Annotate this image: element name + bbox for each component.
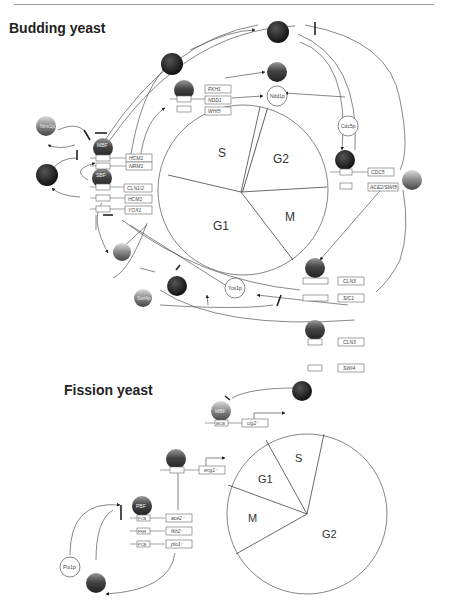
fission-cell-cycle-wheel: S G1 M G2 <box>227 434 387 594</box>
protein-cdc5p: Cdc5p <box>338 116 358 136</box>
protein-nrm1p: Nrm1p <box>36 116 56 136</box>
phase-label-m: M <box>285 210 295 224</box>
svg-text:FKH: FKH <box>138 529 146 534</box>
protein-sep1p <box>166 449 186 469</box>
svg-text:MBF: MBF <box>97 142 108 148</box>
protein-cdc15p <box>86 573 106 593</box>
protein-whi5p <box>113 243 131 261</box>
gene-swi4: SWI4 <box>343 365 355 371</box>
gene-cln3-a: CLN3 <box>343 278 356 284</box>
protein-mcm1-complex <box>335 150 355 170</box>
protein-mcm1p-bottom <box>305 320 325 340</box>
gene-cdc5: CDC5 <box>371 169 385 175</box>
svg-text:Ndd1p: Ndd1p <box>270 93 285 99</box>
fission-promoters: cig2⁺ eng1⁺ ace2⁺ fkh2⁺ plo1⁺ MCB PCB FK… <box>130 419 268 548</box>
protein-swi4p: Swi4p <box>134 289 152 307</box>
fission-phase-g2: G2 <box>322 528 337 540</box>
gene-fkh2: fkh2⁺ <box>171 528 183 534</box>
svg-text:PCB: PCB <box>138 516 147 521</box>
protein-unknown-dark-left <box>36 164 58 186</box>
fission-phase-m: M <box>248 512 257 524</box>
gene-hcm1-mcb: HCM1 <box>129 155 143 161</box>
protein-fission-mbf: MBF <box>211 401 231 421</box>
gene-hcm1-scb: HCM1 <box>128 196 142 202</box>
protein-dark-center <box>167 276 187 296</box>
protein-ace2swi5-complex <box>305 258 325 278</box>
gene-ace2: ace2⁺ <box>171 515 185 521</box>
svg-text:MCB: MCB <box>216 421 225 426</box>
gene-cln12: CLN1/2 <box>127 185 144 191</box>
svg-text:MBF: MBF <box>215 408 226 414</box>
gene-ace2swi5: ACE2/SWI5 <box>369 184 397 190</box>
svg-text:Plo1p: Plo1p <box>63 564 76 570</box>
phase-label-s: S <box>218 146 226 160</box>
svg-text:Nrm1p: Nrm1p <box>40 123 55 129</box>
svg-text:PCB: PCB <box>138 542 147 547</box>
protein-plo1p: Plo1p <box>60 557 80 577</box>
phase-label-g2: G2 <box>273 152 289 166</box>
phase-label-g1: G1 <box>213 219 229 233</box>
protein-yox1p: Yox1p <box>225 278 245 298</box>
gene-eng1: eng1⁺ <box>204 467 218 473</box>
protein-swi5-right <box>402 170 422 190</box>
gene-cln3-b: CLN3 <box>343 339 356 345</box>
gene-nrm1: NRM1 <box>129 163 143 169</box>
protein-dark-top <box>161 53 183 75</box>
gene-yox1: YOX1 <box>128 207 142 213</box>
protein-pbf: PBF <box>132 496 152 516</box>
protein-dark-topright <box>267 21 289 43</box>
gene-plo1: plo1⁺ <box>170 541 183 547</box>
svg-text:Swi4p: Swi4p <box>137 295 151 301</box>
svg-text:Yox1p: Yox1p <box>228 285 242 291</box>
regulatory-network-diagram: S G2 G1 M <box>0 0 449 609</box>
protein-fkh2p <box>267 62 287 82</box>
protein-ndd1p: Ndd1p <box>267 86 287 106</box>
gene-fkh1: FKH1 <box>208 86 221 92</box>
fission-phase-s: S <box>295 452 302 464</box>
gene-sic1: SIC1 <box>343 295 354 301</box>
budding-cell-cycle-wheel: S G2 G1 M <box>158 105 328 275</box>
protein-fission-dark <box>292 381 312 401</box>
svg-text:PBF: PBF <box>136 503 146 509</box>
gene-ndd1: NDD1 <box>208 97 222 103</box>
svg-text:Cdc5p: Cdc5p <box>341 123 356 129</box>
gene-cig2: cig2⁺ <box>247 420 259 426</box>
svg-text:SBF: SBF <box>96 172 106 178</box>
fission-phase-g1: G1 <box>258 473 273 485</box>
gene-whi5: WHI5 <box>208 108 221 114</box>
